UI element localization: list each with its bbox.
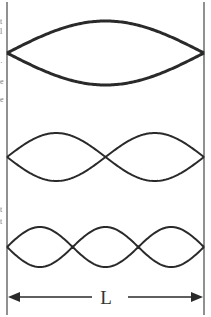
wave-envelope-lower bbox=[7, 157, 204, 181]
mode-second-harmonic bbox=[7, 133, 204, 181]
wave-envelope-upper bbox=[7, 227, 204, 247]
wave-envelope-upper bbox=[7, 21, 204, 53]
wave-envelope-lower bbox=[7, 53, 204, 85]
arrowhead-right-icon bbox=[191, 292, 203, 302]
wave-envelope-upper bbox=[7, 133, 204, 157]
arrowhead-left-icon bbox=[8, 292, 20, 302]
mode-third-harmonic bbox=[7, 227, 204, 267]
standing-wave-diagram: L bbox=[0, 0, 211, 317]
length-dimension: L bbox=[8, 287, 203, 308]
mode-fundamental bbox=[7, 21, 204, 85]
wave-envelope-lower bbox=[7, 247, 204, 267]
length-label: L bbox=[100, 287, 112, 308]
